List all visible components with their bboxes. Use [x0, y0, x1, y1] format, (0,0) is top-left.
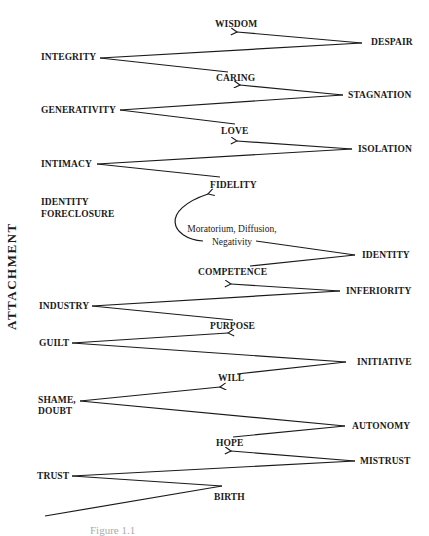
label-hope: HOPE: [216, 438, 243, 449]
label-intimacy: INTIMACY: [41, 159, 92, 170]
label-fidelity: FIDELITY: [210, 180, 257, 191]
line-purpose-industry: [92, 306, 233, 320]
label-shame-line2: DOUBT: [38, 406, 72, 417]
label-autonomy: AUTONOMY: [352, 421, 410, 432]
line-integrity-despair: [100, 43, 362, 58]
label-competence: COMPETENCE: [198, 267, 267, 278]
line-hope-autonomy: [233, 426, 345, 437]
arrow-mistrust-hope: [231, 451, 355, 461]
label-guilt: GUILT: [39, 338, 69, 349]
label-love: LOVE: [221, 126, 248, 137]
label-initiative: INITIATIVE: [357, 357, 412, 368]
arrow-isolation-love: [237, 141, 352, 149]
line-initiative-guilt: [72, 343, 346, 362]
line-birth-trust: [72, 476, 222, 486]
label-mistrust: MISTRUST: [360, 456, 410, 467]
figure-caption: Figure 1.1: [90, 524, 135, 536]
label-will: WILL: [218, 373, 244, 384]
line-start-birth: [45, 486, 222, 516]
line-competence-identity: [250, 255, 355, 266]
label-stagnation: STAGNATION: [348, 90, 411, 101]
label-industry: INDUSTRY: [39, 301, 89, 312]
arrow-shame-will: [80, 387, 220, 401]
label-caring: CARING: [216, 73, 255, 84]
label-integrity: INTEGRITY: [41, 52, 96, 63]
line-fidelity-intimacy: [97, 164, 220, 177]
arrow-stagnation-caring: [240, 85, 343, 95]
label-generativity: GENERATIVITY: [41, 105, 116, 116]
arrow-guilt-purpose: [72, 333, 228, 343]
label-identity: IDENTITY: [362, 250, 410, 261]
line-love-generativity: [120, 110, 235, 124]
label-isolation: ISOLATION: [358, 144, 412, 155]
label-identity-foreclosure-line1: IDENTITY: [41, 197, 89, 208]
line-industry-inferiority: [92, 291, 340, 306]
label-birth: BIRTH: [214, 492, 245, 503]
line-caring-integrity: [100, 58, 228, 72]
line-intimacy-isolation: [97, 149, 352, 164]
line-trust-mistrust: [72, 461, 355, 476]
label-moratorium-line1: Moratorium, Diffusion,: [186, 223, 278, 236]
label-purpose: PURPOSE: [210, 321, 255, 332]
arrow-despair-wisdom: [237, 32, 362, 43]
label-despair: DESPAIR: [371, 37, 413, 48]
axis-label-attachment: ATTACHMENT: [4, 222, 20, 330]
label-shame-line1: SHAME,: [38, 395, 76, 406]
label-trust: TRUST: [37, 471, 69, 482]
label-moratorium-line2: Negativity: [186, 236, 278, 249]
line-autonomy-shame: [80, 401, 345, 426]
line-generativity-stagnation: [120, 95, 343, 110]
label-inferiority: INFERIORITY: [346, 286, 412, 297]
label-wisdom: WISDOM: [215, 19, 257, 30]
arrow-inferiority-competence: [231, 284, 340, 291]
line-will-initiative: [237, 362, 346, 374]
label-identity-foreclosure-line2: FORECLOSURE: [41, 209, 114, 220]
